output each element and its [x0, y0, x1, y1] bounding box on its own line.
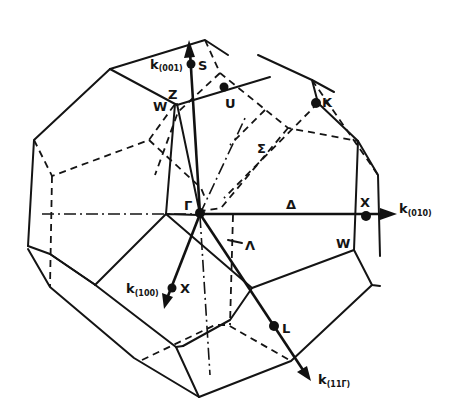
hidden-left-vertical: [50, 176, 52, 287]
bottom-left-inner: [50, 254, 94, 284]
axis-k010-arrowhead: [380, 208, 397, 220]
front-hex-lower-left: [183, 288, 252, 346]
bottom-left-edge: [28, 246, 199, 397]
right-face-edge: [354, 141, 358, 250]
label-gamma: Γ: [184, 198, 192, 213]
bottom-lower-edge: [28, 249, 199, 397]
label-k100: k(100): [126, 281, 159, 298]
label-sigma: Σ: [257, 141, 266, 156]
label-X-right: X: [360, 195, 370, 210]
hidden-bottom-dash: [142, 325, 291, 361]
brillouin-zone-diagram: S U K Z W W X X Γ L Σ Δ Λ k(001) k(010) …: [0, 0, 453, 410]
point-S-dot: [187, 60, 196, 69]
front-hex-lower: [166, 214, 354, 288]
lambda-pointer: [228, 240, 242, 243]
label-L: L: [282, 321, 290, 336]
labels: S U K Z W W X X Γ L Σ Δ Λ k(001) k(010) …: [126, 57, 432, 389]
label-W-right: W: [336, 236, 350, 251]
point-L-dot: [269, 321, 279, 331]
top-face-front-edge: [110, 69, 270, 105]
label-delta: Δ: [286, 197, 296, 212]
front-hex-edge-left: [95, 214, 199, 285]
label-K: K: [322, 95, 333, 110]
label-X-bottom: X: [180, 281, 190, 296]
bottom-join: [176, 346, 183, 347]
point-X-bottom-dot: [168, 284, 177, 293]
label-k111: k(11Γ): [318, 372, 350, 389]
point-X-right-dot: [361, 211, 371, 221]
label-lambda: Λ: [245, 238, 255, 253]
hidden-top-dash: [155, 73, 220, 175]
dashdot-vertical: [200, 216, 210, 375]
label-S: S: [198, 58, 207, 73]
point-K-dot: [311, 98, 321, 108]
label-k001: k(001): [150, 57, 183, 73]
construction-lines: [42, 116, 246, 375]
hidden-right-to-center: [201, 128, 288, 211]
right-face-lower-edge: [354, 250, 380, 286]
left-outer-edge: [28, 69, 110, 246]
hidden-left-hex: [34, 104, 175, 176]
top-face-edge-right: [258, 55, 334, 92]
axis-k111-arrowhead: [297, 366, 311, 381]
label-k010: k(010): [399, 201, 432, 218]
point-gamma-dot: [195, 208, 205, 218]
hidden-K-sigma: [224, 103, 318, 198]
point-U-dot: [220, 83, 229, 92]
axis-k100-arrowhead: [162, 293, 173, 309]
label-Z: Z: [168, 87, 177, 102]
label-W-top: W: [153, 99, 167, 114]
label-U: U: [225, 96, 236, 111]
dashdot-diagonal: [200, 116, 246, 214]
